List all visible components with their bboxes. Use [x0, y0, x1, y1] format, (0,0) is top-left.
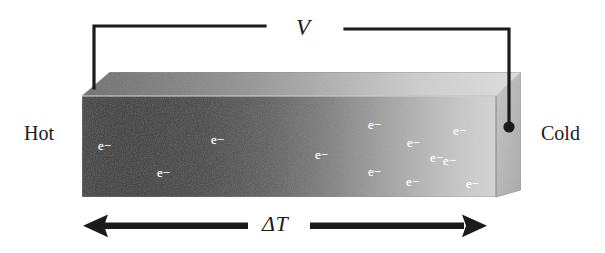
bar-top-face	[82, 72, 521, 96]
electron-carrier: e−	[443, 154, 456, 167]
electron-carrier: e−	[157, 166, 170, 179]
electron-carrier: e−	[430, 151, 443, 164]
electron-carrier: e−	[315, 148, 328, 161]
arrow-left	[83, 215, 248, 238]
electron-carrier: e−	[98, 139, 111, 152]
electron-carrier: e−	[368, 118, 381, 131]
hot-end-label: Hot	[24, 123, 54, 143]
thermoelectric-seebeck-diagram: Hot Cold V ΔT e−e−e−e−e−e−e−e−e−e−e−e−	[0, 0, 605, 253]
cold-end-label: Cold	[541, 123, 580, 143]
arrow-right	[310, 215, 487, 238]
electron-carrier: e−	[453, 124, 466, 137]
electron-carrier: e−	[368, 165, 381, 178]
electron-carrier: e−	[407, 136, 420, 149]
delta-t-label: ΔT	[262, 213, 288, 235]
electron-carrier: e−	[466, 177, 479, 190]
electron-carrier: e−	[406, 175, 419, 188]
electron-carrier: e−	[211, 133, 224, 146]
voltage-symbol-label: V	[296, 16, 310, 39]
terminal-dot-icon	[503, 121, 514, 132]
bar-front-face	[82, 96, 496, 197]
